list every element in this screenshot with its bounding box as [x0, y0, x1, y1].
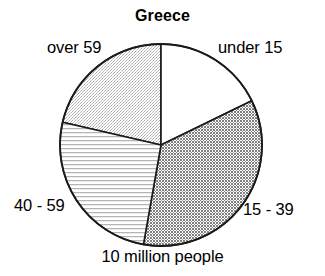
- chart-caption: 10 million people: [0, 247, 325, 266]
- pie-chart-figure: Greece: [0, 0, 325, 276]
- pie-label-15-39: 15 - 39: [243, 200, 294, 219]
- pie-label-40-59: 40 - 59: [14, 196, 65, 215]
- pie-label-over-59: over 59: [47, 38, 101, 57]
- pie-label-under-15: under 15: [218, 38, 282, 57]
